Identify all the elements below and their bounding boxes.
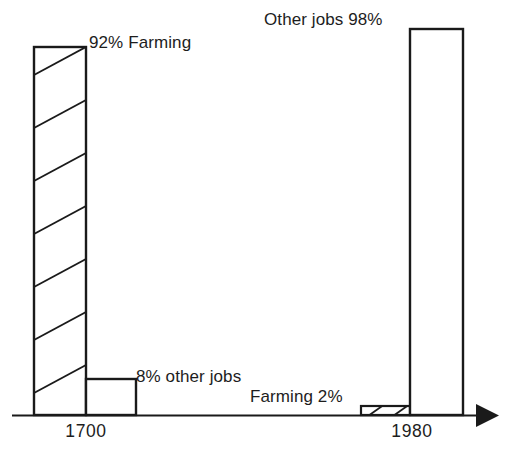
bar-farming-1700-outline	[34, 47, 86, 415]
bar-other-jobs-1700	[86, 379, 136, 415]
x-axis-arrowhead-icon	[476, 404, 499, 427]
bar-other-jobs-1980	[410, 29, 463, 415]
bar-other-jobs-1980-outline	[410, 29, 463, 415]
bar-chart-figure: 92% Farming 8% other jobs Other jobs 98%…	[0, 0, 510, 463]
bar-other-jobs-1700-outline	[86, 379, 136, 415]
x-axis-tick-label-1980: 1980	[372, 421, 452, 441]
data-label-other-jobs-1980: Other jobs 98%	[264, 10, 383, 30]
x-axis-tick-label-1700: 1700	[46, 421, 126, 441]
bar-farming-1980-outline	[361, 406, 410, 415]
data-label-farming-1980: Farming 2%	[250, 387, 343, 407]
data-label-other-jobs-1700: 8% other jobs	[136, 367, 241, 387]
bar-farming-1700	[34, 47, 86, 446]
data-label-farming-1700: 92% Farming	[89, 33, 191, 53]
bar-farming-1980	[361, 404, 410, 421]
